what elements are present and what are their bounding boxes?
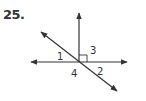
intersecting-lines-diagram: 1 3 2 4 — [0, 0, 146, 101]
angle-label-1: 1 — [57, 51, 63, 62]
angle-label-3: 3 — [90, 45, 96, 56]
angle-label-2: 2 — [97, 66, 103, 77]
angle-label-4: 4 — [71, 68, 77, 79]
right-angle-marker — [79, 55, 87, 62]
